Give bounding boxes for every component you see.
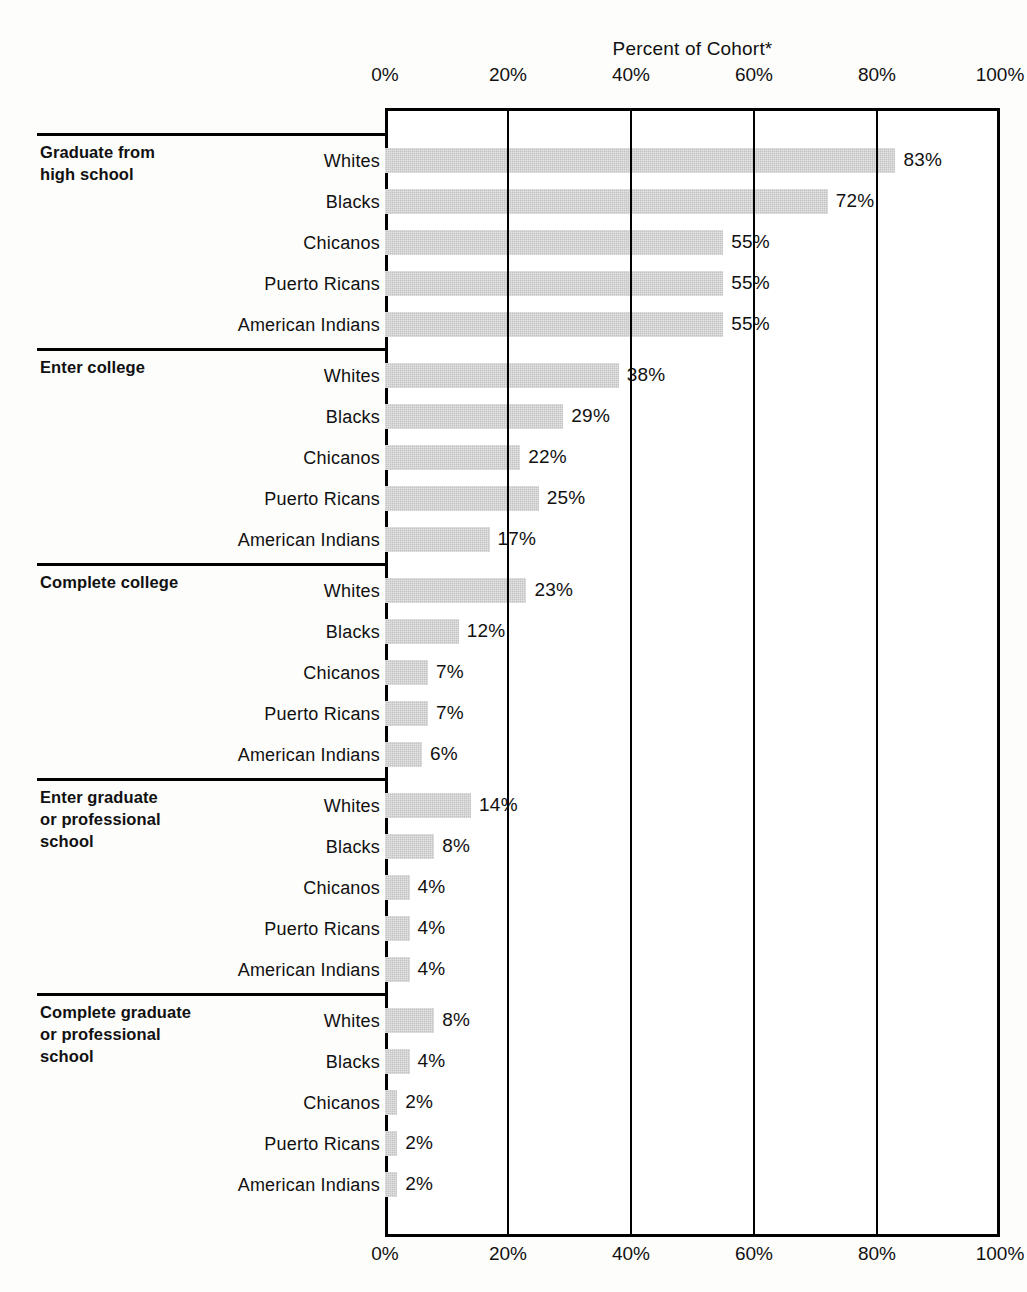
bar: [385, 445, 520, 470]
row-category-label: Puerto Ricans: [264, 1134, 380, 1155]
bar-value-label: 4%: [418, 1050, 446, 1072]
bar-chart: Percent of Cohort* 0%20%40%60%80%100% Gr…: [0, 0, 1027, 1292]
bar-value-label: 29%: [571, 405, 610, 427]
row-category-label: American Indians: [238, 745, 380, 766]
x-tick-top-20pct: 20%: [489, 64, 527, 86]
chart-row: Chicanos55%: [0, 230, 1027, 271]
bar: [385, 1131, 397, 1156]
row-category-label: Whites: [324, 366, 380, 387]
bar: [385, 742, 422, 767]
row-category-label: Whites: [324, 1011, 380, 1032]
chart-row: Whites8%: [0, 1008, 1027, 1049]
row-category-label: Blacks: [326, 622, 380, 643]
chart-row: Chicanos2%: [0, 1090, 1027, 1131]
bar-value-label: 4%: [418, 876, 446, 898]
bar: [385, 1008, 434, 1033]
bar-value-label: 17%: [498, 528, 537, 550]
chart-row: Whites14%: [0, 793, 1027, 834]
row-category-label: Puerto Ricans: [264, 489, 380, 510]
chart-row: Blacks29%: [0, 404, 1027, 445]
bar-value-label: 7%: [436, 702, 464, 724]
bar: [385, 230, 723, 255]
bar-value-label: 55%: [731, 313, 770, 335]
bar-value-label: 8%: [442, 835, 470, 857]
x-tick-top-100pct: 100%: [976, 64, 1025, 86]
chart-group: Enter collegeWhites38%Blacks29%Chicanos2…: [0, 348, 1027, 573]
chart-row: American Indians6%: [0, 742, 1027, 783]
chart-row: Puerto Ricans25%: [0, 486, 1027, 527]
bar-value-label: 22%: [528, 446, 567, 468]
x-tick-bottom-40pct: 40%: [612, 1243, 650, 1265]
row-category-label: Puerto Ricans: [264, 274, 380, 295]
bar: [385, 578, 526, 603]
chart-row: American Indians4%: [0, 957, 1027, 998]
gridline-20pct: [507, 108, 509, 1237]
x-axis-bottom: 0%20%40%60%80%100%: [0, 1243, 1027, 1265]
row-category-label: Blacks: [326, 192, 380, 213]
bar: [385, 486, 539, 511]
bar: [385, 1090, 397, 1115]
bar: [385, 619, 459, 644]
row-category-label: Whites: [324, 581, 380, 602]
bar-value-label: 7%: [436, 661, 464, 683]
gridline-dash: [753, 294, 755, 308]
chart-row: American Indians55%: [0, 312, 1027, 353]
bar-value-label: 4%: [418, 917, 446, 939]
row-category-label: Blacks: [326, 837, 380, 858]
bar-value-label: 6%: [430, 743, 458, 765]
row-category-label: American Indians: [238, 1175, 380, 1196]
group-divider: [37, 133, 388, 136]
bar: [385, 363, 619, 388]
bar-value-label: 72%: [836, 190, 875, 212]
bar: [385, 875, 410, 900]
bar: [385, 916, 410, 941]
group-divider: [37, 778, 388, 781]
chart-row: Whites83%: [0, 148, 1027, 189]
row-category-label: Blacks: [326, 1052, 380, 1073]
bar-value-label: 25%: [547, 487, 586, 509]
x-tick-bottom-80pct: 80%: [858, 1243, 896, 1265]
bar-value-label: 55%: [731, 272, 770, 294]
chart-group: Complete collegeWhites23%Blacks12%Chican…: [0, 563, 1027, 788]
gridline-40pct: [630, 108, 632, 1237]
row-category-label: American Indians: [238, 960, 380, 981]
bar-value-label: 83%: [903, 149, 942, 171]
chart-row: Blacks4%: [0, 1049, 1027, 1090]
chart-group: Complete graduateor professionalschoolWh…: [0, 993, 1027, 1218]
group-divider: [37, 348, 388, 351]
x-tick-top-40pct: 40%: [612, 64, 650, 86]
chart-group: Enter graduateor professionalschoolWhite…: [0, 778, 1027, 1003]
bar: [385, 957, 410, 982]
x-tick-top-0pct: 0%: [371, 64, 398, 86]
row-category-label: Chicanos: [303, 878, 380, 899]
bar: [385, 312, 723, 337]
bar: [385, 701, 428, 726]
bar: [385, 404, 563, 429]
chart-row: Puerto Ricans4%: [0, 916, 1027, 957]
x-tick-bottom-20pct: 20%: [489, 1243, 527, 1265]
x-tick-bottom-100pct: 100%: [976, 1243, 1025, 1265]
group-divider: [37, 993, 388, 996]
chart-row: Puerto Ricans7%: [0, 701, 1027, 742]
bar-value-label: 12%: [467, 620, 506, 642]
row-category-label: Whites: [324, 151, 380, 172]
row-category-label: Puerto Ricans: [264, 704, 380, 725]
bar-value-label: 55%: [731, 231, 770, 253]
bar: [385, 148, 895, 173]
chart-row: Blacks8%: [0, 834, 1027, 875]
row-category-label: Blacks: [326, 407, 380, 428]
x-axis-top: 0%20%40%60%80%100%: [0, 64, 1027, 86]
bar: [385, 1172, 397, 1197]
chart-row: Chicanos7%: [0, 660, 1027, 701]
gridline-60pct: [753, 108, 755, 1237]
bar-value-label: 4%: [418, 958, 446, 980]
bar: [385, 660, 428, 685]
bar-value-label: 2%: [405, 1091, 433, 1113]
chart-row: Whites38%: [0, 363, 1027, 404]
row-category-label: American Indians: [238, 315, 380, 336]
bar: [385, 527, 490, 552]
x-tick-top-60pct: 60%: [735, 64, 773, 86]
chart-row: Whites23%: [0, 578, 1027, 619]
row-category-label: Chicanos: [303, 448, 380, 469]
chart-row: Blacks12%: [0, 619, 1027, 660]
